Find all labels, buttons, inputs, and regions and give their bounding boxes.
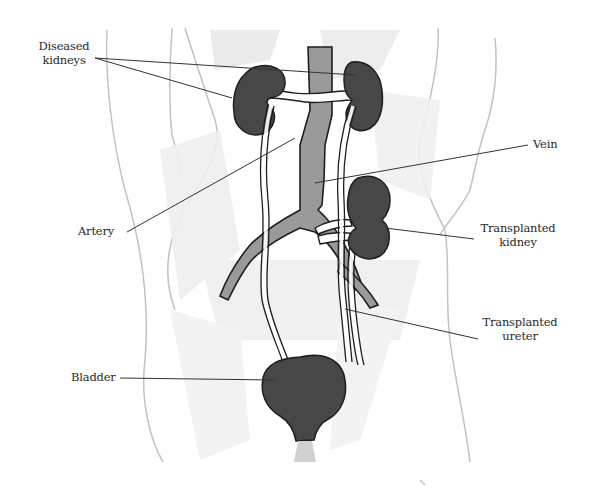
- label-bladder: Bladder: [71, 371, 116, 385]
- label-transplanted-kidney: Transplanted kidney: [468, 222, 568, 250]
- label-artery: Artery: [78, 225, 114, 239]
- urethra: [294, 441, 316, 462]
- leader-transplanted-kidney: [385, 228, 474, 239]
- leader-diseased-kidney-2: [95, 58, 232, 98]
- label-vein: Vein: [533, 138, 557, 152]
- diseased-kidney-right-side: [233, 66, 285, 135]
- label-transplanted-ureter: Transplanted ureter: [470, 316, 570, 344]
- kidney-transplant-diagram: Diseased kidneys Vein Artery Transplante…: [0, 0, 598, 489]
- transplanted-kidney: [347, 176, 390, 259]
- label-diseased-kidneys: Diseased kidneys: [28, 40, 100, 68]
